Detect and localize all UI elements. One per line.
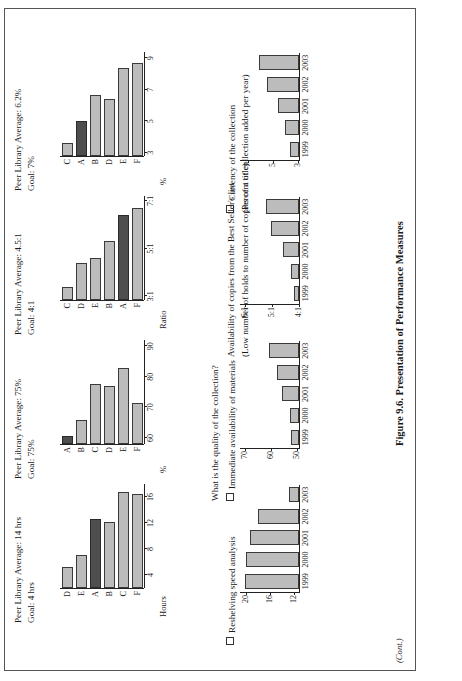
trend-bar	[277, 365, 299, 380]
peer-axis-title: %	[158, 466, 168, 473]
trend-y-tick: 4:1	[295, 307, 303, 317]
trend-y-tickmark	[246, 592, 247, 595]
peer-average-text-currency: Peer Library Average: 6.2%	[12, 89, 25, 191]
trend-bar	[290, 142, 299, 157]
trend-bar	[246, 552, 299, 567]
trend-bar	[269, 343, 299, 358]
peer-axis-title: Hours	[158, 596, 168, 617]
checkbox-icon	[226, 493, 234, 501]
checkbox-icon	[226, 205, 234, 213]
trend-bar	[291, 264, 299, 279]
rotated-content: Figure 9.6. Presentation of Performance …	[4, 8, 416, 671]
trend-bar	[278, 99, 299, 114]
section-sublabel-availability: What is the quality of the collection?	[210, 365, 221, 501]
section-label-text: Currency of the collection	[227, 105, 237, 201]
trend-bar	[283, 243, 299, 258]
trend-x-tick: 2003	[301, 481, 310, 509]
peer-category-label: B	[104, 303, 115, 308]
trend-y-tick: 70	[241, 451, 249, 459]
trend-plot-area: 199920002001200220034:15:16:1	[240, 197, 300, 305]
peer-bar	[104, 241, 115, 300]
peer-bar	[62, 287, 73, 300]
trend-y-tickmark	[273, 160, 274, 163]
peer-category-label: D	[62, 591, 73, 597]
trend-plot-area: 19992000200120022003357	[240, 53, 300, 161]
figure-page: Figure 9.6. Presentation of Performance …	[0, 0, 462, 681]
trend-y-tick: 3	[294, 163, 302, 167]
peer-category-label: B	[104, 591, 115, 596]
peer-x-tick: 80	[147, 373, 155, 381]
trend-x-tick: 2003	[301, 337, 310, 365]
peer-bar	[132, 63, 143, 156]
peer-bar	[76, 420, 87, 444]
peer-category-label: E	[118, 159, 129, 164]
peer-x-tick: 7:1	[147, 196, 155, 206]
section-label-currency: Currency of the collection	[226, 105, 238, 213]
trend-bar	[266, 199, 299, 214]
trend-bar	[250, 531, 299, 546]
goal-text-bestseller: Goal: 4:1	[25, 301, 38, 335]
trend-bar	[294, 286, 299, 301]
trend-plot-area: 19992000200120022003506070	[240, 341, 300, 449]
peer-category-label: C	[118, 591, 129, 596]
trend-y-tickmark	[248, 160, 249, 163]
trend-y-tick: 6:1	[241, 307, 249, 317]
peer-bar	[118, 492, 129, 588]
peer-bar	[104, 522, 115, 588]
peer-plot-area: DEABCF481216	[60, 485, 144, 589]
trend-plot-area: 19992000200120022003121620	[240, 485, 300, 593]
section-label-text: Reshelving speed analysis	[227, 537, 237, 633]
goal-text-reshelving: Goal: 4 hrs	[25, 582, 38, 623]
figure-caption: Figure 9.6. Presentation of Performance …	[394, 221, 405, 446]
peer-category-label: A	[76, 159, 87, 165]
trend-bar	[259, 55, 299, 70]
peer-x-tick: 90	[147, 342, 155, 350]
peer-bar	[132, 494, 143, 588]
peer-category-label: F	[132, 591, 143, 596]
trend-y-tickmark	[270, 592, 271, 595]
peer-category-label: A	[118, 303, 129, 309]
peer-bar	[104, 386, 115, 444]
checkbox-icon	[226, 637, 234, 645]
peer-average-text-bestseller: Peer Library Average: 4.5:1	[12, 233, 25, 335]
trend-y-tick: 12	[290, 595, 298, 603]
peer-plot-area: ABCDEF60708090	[60, 341, 144, 445]
peer-x-tick: 3:1	[147, 291, 155, 301]
peer-x-tick: 12	[147, 519, 155, 527]
trend-x-tick: 2003	[301, 193, 310, 221]
peer-bar	[118, 368, 129, 444]
peer-category-label: E	[76, 591, 87, 596]
peer-bar	[76, 556, 87, 589]
trend-y-tickmark	[245, 304, 246, 307]
peer-average-text-availability: Peer Library Average: 75%	[12, 379, 25, 479]
trend-y-tick: 5:1	[268, 307, 276, 317]
peer-category-label: E	[90, 303, 101, 308]
trend-y-tickmark	[245, 448, 246, 451]
peer-category-label: D	[104, 159, 115, 165]
peer-bar	[118, 68, 129, 156]
trend-y-tick: 5	[269, 163, 277, 167]
trend-bar	[258, 509, 299, 524]
peer-axis-title: Ratio	[158, 311, 168, 329]
peer-x-tick: 16	[147, 493, 155, 501]
trend-y-tick: 20	[242, 595, 250, 603]
peer-x-axis	[144, 196, 145, 300]
peer-category-label: C	[62, 303, 73, 308]
section-label-availability: Immediate availability of materials	[226, 360, 238, 501]
section-label-reshelving: Reshelving speed analysis	[226, 537, 238, 645]
trend-y-tickmark	[271, 448, 272, 451]
peer-x-tick: 5:1	[147, 243, 155, 253]
peer-x-axis	[144, 52, 145, 156]
trend-x-tick: 2003	[301, 49, 310, 77]
goal-text-availability: Goal: 75%	[25, 439, 38, 479]
peer-category-label: F	[132, 159, 143, 164]
peer-bar	[118, 215, 129, 300]
peer-x-axis	[144, 484, 145, 588]
trend-y-tickmark	[272, 304, 273, 307]
peer-bar	[132, 403, 143, 444]
peer-x-tick: 60	[147, 434, 155, 442]
peer-category-label: B	[90, 159, 101, 164]
trend-y-tick: 16	[266, 595, 274, 603]
peer-plot-area: CDEBAF3:15:17:1	[60, 197, 144, 301]
peer-x-tick: 8	[147, 547, 155, 551]
